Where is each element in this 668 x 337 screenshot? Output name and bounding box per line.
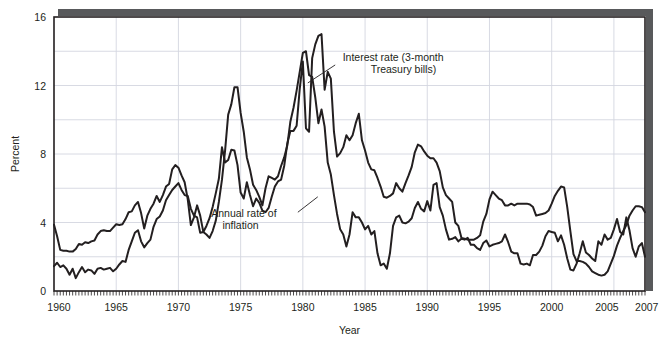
inflation-label-line1: Annual rate of [211,207,276,219]
y-tick-label: 16 [34,11,46,23]
x-axis-title: Year [339,324,361,336]
y-tick-label: 8 [40,148,46,160]
x-tick-label: 1990 [416,301,440,313]
x-tick-label: 2007 [635,301,659,313]
y-tick-label: 0 [40,285,46,297]
inflation-label-line2: inflation [222,219,258,231]
y-tick-label: 12 [34,80,46,92]
figure-container: 0481216196019651970197519801985199019952… [0,0,668,337]
interest-rate-label-line1: Interest rate (3-month [343,51,444,63]
x-tick-label: 1965 [105,301,129,313]
line-chart: 0481216196019651970197519801985199019952… [0,0,668,337]
x-tick-label: 2000 [540,301,564,313]
x-tick-label: 1960 [47,301,71,313]
plot-shadow-top [58,9,649,16]
y-tick-label: 4 [40,217,46,229]
x-tick-label: 1970 [167,301,191,313]
x-tick-label: 1975 [229,301,253,313]
x-tick-label: 1980 [291,301,315,313]
y-axis-title: Percent [9,136,21,172]
x-tick-label: 2005 [595,301,619,313]
x-tick-label: 1985 [353,301,377,313]
x-tick-label: 1995 [478,301,502,313]
plot-shadow-right [646,9,653,291]
interest-rate-label-line2: Treasury bills) [371,63,437,75]
